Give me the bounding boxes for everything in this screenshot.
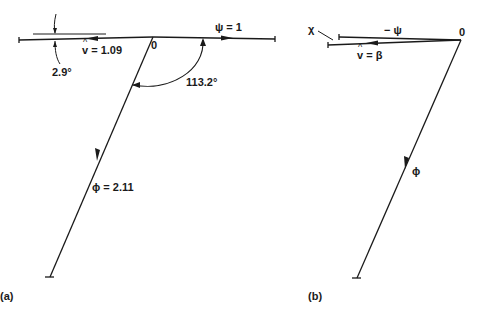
caption-b: (b) (308, 291, 322, 302)
phi-label: ϕ = 2.11 (92, 182, 134, 193)
v-hat-symbol: v (82, 45, 88, 56)
v-hat-beta-arrow-icon (366, 41, 378, 46)
phi-label-b: ϕ (412, 166, 420, 177)
large-angle-label: 113.2° (186, 77, 217, 88)
v-hat-beta-value: = β (363, 49, 382, 61)
minus-psi-vector (339, 37, 461, 40)
caption-a: (a) (0, 291, 13, 302)
minus-psi-label: − ψ (384, 25, 402, 36)
phi-vector-b (357, 40, 461, 278)
psi-vector (153, 37, 275, 39)
v-hat-beta-label: v = β (357, 50, 382, 61)
origin-label-b: 0 (459, 27, 465, 38)
small-angle-label: 2.9° (52, 67, 72, 78)
chi-label: χ (308, 24, 314, 35)
chi-pointer-line (318, 31, 333, 40)
psi-label: ψ = 1 (215, 22, 242, 33)
v-hat-label: v = 1.09 (82, 45, 122, 56)
v-hat-value: = 1.09 (88, 44, 122, 56)
origin-label-a: 0 (151, 40, 157, 51)
v-hat-beta-vector (328, 40, 461, 45)
phasor-diagram (0, 0, 478, 319)
small-angle-arrow-top-icon (53, 28, 57, 34)
v-hat-arrow-icon (86, 36, 98, 41)
psi-arrow-icon (221, 36, 233, 41)
v-hat-beta-symbol: v (357, 50, 363, 61)
panel-a (19, 14, 275, 277)
large-angle-arrow-top-icon (200, 38, 206, 46)
panel-b (318, 31, 461, 278)
phi-arrow-b-icon (404, 156, 409, 169)
small-angle-arrow-bottom-icon (53, 41, 57, 47)
phi-arrow-icon (95, 148, 100, 161)
